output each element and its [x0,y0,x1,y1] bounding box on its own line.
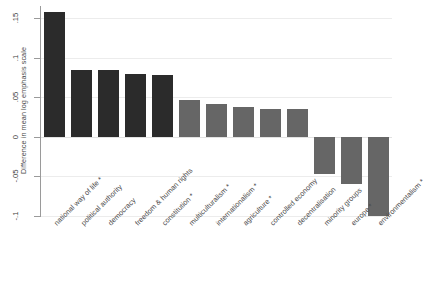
y-axis-tick-label-wrap: -.1 [2,210,30,222]
zero-gridline [41,137,392,138]
bar [260,109,281,137]
bar [179,100,200,137]
y-axis-tick-label: 0 [10,123,22,151]
bar [206,104,227,136]
y-axis-tick-label-wrap: .15 [2,12,30,24]
y-axis-tick-label: -.05 [10,162,22,190]
gridline [41,58,392,59]
bar [44,12,65,136]
bar [125,74,146,137]
bar [71,70,92,137]
bar [98,70,119,137]
y-axis-tick-label-wrap: -.05 [2,170,30,182]
y-axis-tick [34,97,40,98]
y-axis-tick [34,58,40,59]
y-axis-tick-label-wrap: .05 [2,91,30,103]
gridline [41,18,392,19]
y-axis-tick-label: -.1 [10,202,22,230]
bar [341,137,362,184]
gridline [41,176,392,177]
y-axis-tick [34,216,40,217]
y-axis-tick [34,137,40,138]
bar [314,137,335,175]
y-axis-tick-label: .05 [10,83,22,111]
y-axis-tick-label: .1 [10,44,22,72]
bar [233,107,254,137]
bar [152,75,173,137]
y-axis-tick-label: .15 [10,4,22,32]
y-axis-tick-label-wrap: 0 [2,131,30,143]
bar [287,109,308,136]
gridline [41,97,392,98]
y-axis-tick [34,176,40,177]
y-axis-tick [34,18,40,19]
y-axis-tick-label-wrap: .1 [2,52,30,64]
